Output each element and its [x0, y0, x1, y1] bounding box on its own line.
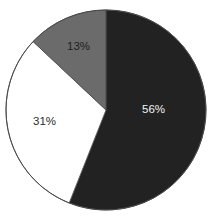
pie-slice-label-31: 31% [33, 116, 56, 128]
pie-slice-label-56: 56% [142, 104, 165, 116]
pie-slices [6, 10, 206, 210]
pie-slice-label-13: 13% [67, 41, 90, 53]
pie-chart-figure: 56% 31% 13% [0, 0, 212, 222]
pie-chart-graphic [0, 0, 212, 222]
